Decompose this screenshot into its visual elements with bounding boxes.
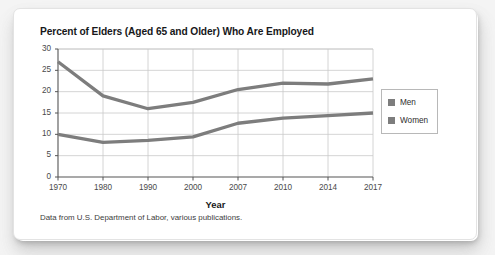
series-line-women	[58, 113, 373, 142]
chart-caption: Data from U.S. Department of Labor, vari…	[40, 213, 242, 222]
y-axis-tick-label: 0	[35, 172, 51, 181]
legend-item-women[interactable]: Women	[388, 114, 432, 127]
y-axis-tick-label: 25	[35, 65, 51, 74]
x-axis-tick-label: 2010	[263, 183, 303, 192]
y-axis-tick-label: 5	[35, 150, 51, 159]
legend-label-men: Men	[400, 98, 416, 107]
y-axis-tick-label: 20	[35, 86, 51, 95]
legend-swatch-men	[388, 99, 395, 106]
y-axis-tick-label: 10	[35, 129, 51, 138]
chart-card: Percent of Elders (Aged 65 and Older) Wh…	[13, 8, 477, 240]
x-axis-tick-label: 2007	[218, 183, 258, 192]
x-axis-tick-label: 2000	[173, 183, 213, 192]
x-axis-tick-label: 1970	[38, 183, 78, 192]
series-line-men	[58, 62, 373, 109]
legend-swatch-women	[388, 117, 395, 124]
y-axis-tick-label: 30	[35, 44, 51, 53]
legend-label-women: Women	[400, 116, 428, 125]
x-axis-title: Year	[186, 199, 246, 210]
legend-item-men[interactable]: Men	[388, 96, 432, 109]
x-axis-tick-label: 2014	[308, 183, 348, 192]
x-axis-tick-label: 1980	[83, 183, 123, 192]
chart-legend: Men Women	[381, 89, 438, 134]
x-axis-tick-label: 2017	[353, 183, 393, 192]
y-axis-tick-label: 15	[35, 108, 51, 117]
x-axis-tick-label: 1990	[128, 183, 168, 192]
